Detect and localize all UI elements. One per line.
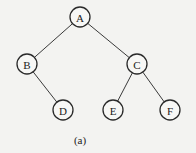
figure-caption: (a) [74,134,86,146]
edge-c-e [118,73,133,101]
tree-node-a: A [70,7,90,27]
node-label: E [110,105,117,117]
tree-diagram: ABCDEF [0,0,196,153]
tree-node-f: F [160,100,180,120]
node-label: C [133,59,140,71]
node-label: F [167,105,173,117]
edge-a-b [34,24,72,58]
node-label: D [59,105,67,117]
tree-node-e: E [103,100,123,120]
nodes-layer: ABCDEF [17,7,180,120]
edge-b-d [33,72,57,102]
edge-a-c [88,23,130,57]
node-label: B [23,59,30,71]
edge-c-f [143,72,164,102]
tree-node-c: C [127,54,147,74]
tree-node-b: B [17,54,37,74]
node-label: A [76,12,84,24]
tree-node-d: D [53,100,73,120]
